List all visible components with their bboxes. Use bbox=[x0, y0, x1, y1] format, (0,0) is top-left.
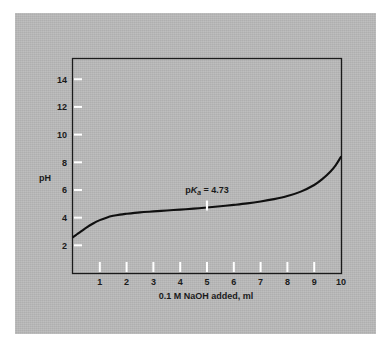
x-tick-label-4: 4 bbox=[178, 277, 183, 287]
x-tick-label-7: 7 bbox=[258, 277, 263, 287]
y-tick-label-14: 14 bbox=[57, 75, 67, 85]
plot-frame bbox=[73, 59, 342, 274]
figure-container: 2468101214 12345678910 pH 0.1 M NaOH add… bbox=[0, 0, 391, 349]
y-tick-label-2: 2 bbox=[62, 241, 67, 251]
x-tick-label-9: 9 bbox=[312, 277, 317, 287]
titration-curve bbox=[73, 157, 341, 237]
x-axis-ticks bbox=[100, 262, 314, 272]
y-tick-label-8: 8 bbox=[62, 158, 67, 168]
x-tick-label-6: 6 bbox=[231, 277, 236, 287]
y-axis-ticks bbox=[74, 79, 82, 245]
x-axis-tick-labels: 12345678910 bbox=[97, 277, 346, 287]
y-tick-label-12: 12 bbox=[57, 102, 67, 112]
x-tick-label-3: 3 bbox=[151, 277, 156, 287]
y-tick-label-10: 10 bbox=[57, 130, 67, 140]
titration-chart: 2468101214 12345678910 pH 0.1 M NaOH add… bbox=[0, 0, 391, 349]
x-tick-label-5: 5 bbox=[204, 277, 209, 287]
x-axis-title: 0.1 M NaOH added, ml bbox=[159, 291, 254, 301]
x-tick-label-10: 10 bbox=[336, 277, 346, 287]
y-tick-label-4: 4 bbox=[62, 213, 67, 223]
y-axis-tick-labels: 2468101214 bbox=[57, 75, 67, 251]
x-tick-label-1: 1 bbox=[97, 277, 102, 287]
x-tick-label-2: 2 bbox=[124, 277, 129, 287]
pka-annotation-label: pKa = 4.73 bbox=[185, 185, 229, 196]
y-tick-label-6: 6 bbox=[62, 185, 67, 195]
y-axis-title: pH bbox=[39, 173, 51, 183]
x-tick-label-8: 8 bbox=[285, 277, 290, 287]
